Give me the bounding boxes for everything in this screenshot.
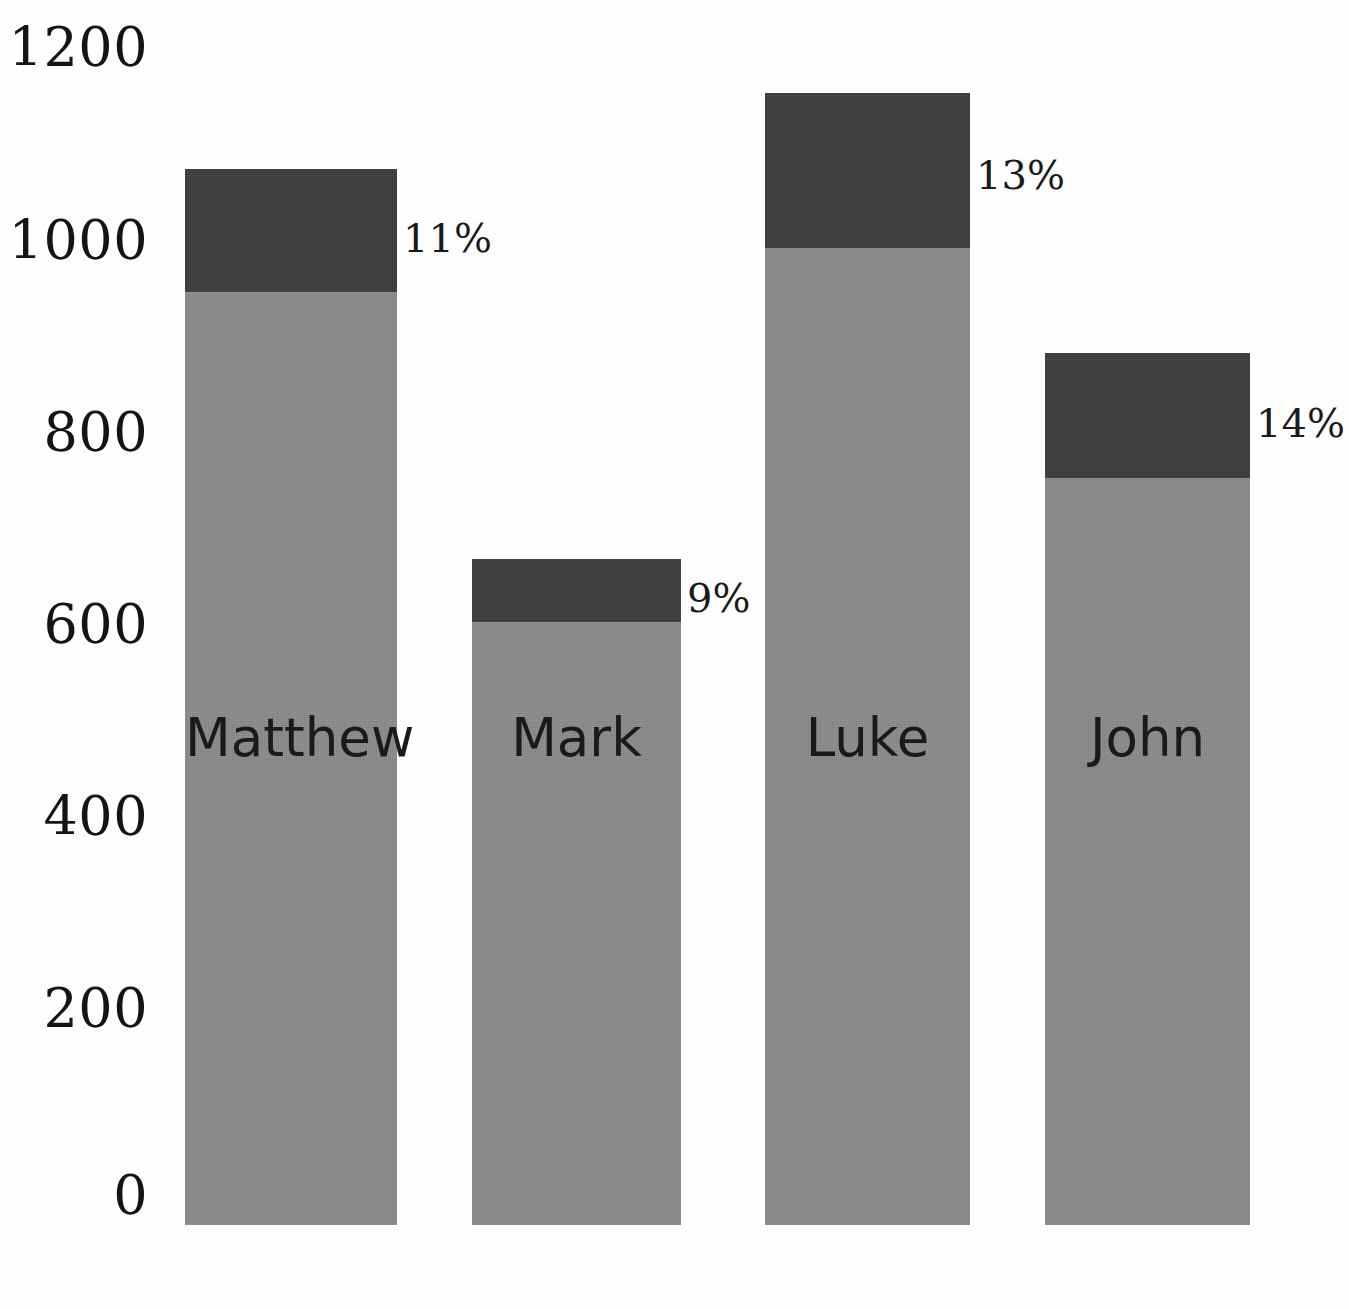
y-axis-tick-label: 800	[0, 406, 148, 460]
bar-percent-label: 11%	[403, 218, 492, 258]
bar-segment-upper[interactable]	[185, 169, 397, 292]
bar-segment-upper[interactable]	[1045, 353, 1250, 478]
y-axis-tick-label: 200	[0, 982, 148, 1036]
bar-category-label: Mark	[472, 711, 681, 764]
bar-segment-upper[interactable]	[765, 93, 970, 248]
bar-category-label: Luke	[765, 711, 970, 764]
bar-john[interactable]: John	[1045, 353, 1250, 1225]
bar-chart: 120010008006004002000 MatthewMarkLukeJoh…	[0, 0, 1349, 1309]
bar-percent-label: 14%	[1256, 403, 1345, 443]
bar-segment-lower[interactable]: Luke	[765, 248, 970, 1225]
y-axis-tick-label: 0	[0, 1169, 148, 1223]
bar-segment-lower[interactable]: Matthew	[185, 292, 397, 1225]
y-axis-tick-label: 1200	[0, 21, 148, 75]
bar-mark[interactable]: Mark	[472, 559, 681, 1225]
bar-matthew[interactable]: Matthew	[185, 169, 397, 1225]
bar-segment-lower[interactable]: John	[1045, 478, 1250, 1225]
bar-percent-label: 13%	[976, 155, 1065, 195]
y-axis-tick-label: 400	[0, 790, 148, 844]
bar-category-label: John	[1045, 711, 1250, 764]
bar-luke[interactable]: Luke	[765, 93, 970, 1225]
bar-segment-upper[interactable]	[472, 559, 681, 622]
y-axis-tick-label: 600	[0, 598, 148, 652]
bar-category-label: Matthew	[185, 711, 397, 764]
bar-percent-label: 9%	[687, 578, 750, 618]
bar-segment-lower[interactable]: Mark	[472, 622, 681, 1225]
y-axis-tick-label: 1000	[0, 214, 148, 268]
